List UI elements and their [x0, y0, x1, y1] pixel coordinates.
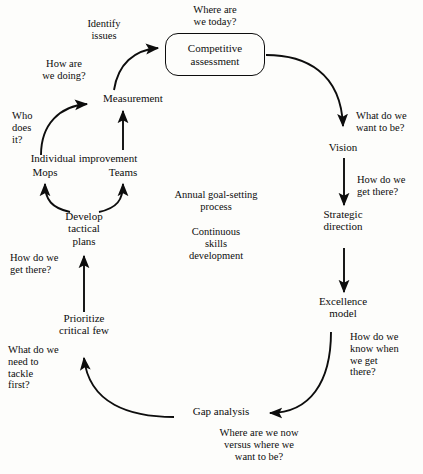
node-vision[interactable]: Vision: [329, 141, 358, 153]
node-competitive-assessment[interactable]: Competitive assessment: [165, 33, 265, 76]
node-measurement[interactable]: Measurement: [103, 92, 163, 104]
question-how-are-we-doing: How are we doing?: [42, 58, 85, 82]
question-how-do-we-get-there-right: How do we get there?: [357, 174, 405, 198]
node-develop-tactical-plans[interactable]: Develop tactical plans: [65, 210, 102, 247]
question-identify-issues: Identify issues: [87, 18, 120, 42]
node-mops[interactable]: Mops: [32, 166, 57, 178]
arrow-excellence-model-to-gap-analysis: [270, 332, 331, 413]
node-competitive-assessment-label: Competitive assessment: [188, 42, 242, 68]
question-who-does-it: Who does it?: [12, 110, 32, 145]
arrow-gap-analysis-to-prioritize: [84, 358, 174, 417]
center-note-annual-goal-setting: Annual goal-setting process: [174, 189, 257, 213]
arrow-competitive-assessment-to-vision: [266, 55, 343, 126]
question-where-are-we-today: Where are we today?: [193, 4, 236, 28]
node-strategic-direction[interactable]: Strategic direction: [323, 208, 362, 233]
question-what-do-we-need-to-tackle-first: What do we need to tackle first?: [8, 344, 59, 391]
arrow-individual-improvement-to-measurement: [41, 104, 87, 155]
node-gap-analysis[interactable]: Gap analysis: [193, 405, 250, 417]
node-excellence-model[interactable]: Excellence model: [319, 295, 367, 320]
node-individual-improvement[interactable]: Individual improvement: [31, 152, 138, 164]
question-where-are-we-now-versus: Where are we now versus where we want to…: [220, 427, 299, 462]
node-prioritize-critical-few[interactable]: Prioritize critical few: [59, 312, 109, 337]
node-teams[interactable]: Teams: [109, 166, 138, 178]
process-cycle-diagram: Competitive assessment Where are we toda…: [0, 0, 423, 474]
arrow-measurement-to-competitive-assessment: [114, 48, 158, 90]
question-how-do-we-know-when-we-get-there: How do we know when we get there?: [350, 331, 399, 378]
center-note-continuous-skills: Continuous skills development: [189, 226, 243, 261]
arrow-develop-to-mops: [45, 184, 70, 212]
question-what-do-we-want-to-be: What do we want to be?: [356, 110, 407, 134]
arrow-develop-to-teams: [99, 184, 123, 212]
question-how-do-we-get-there-left: How do we get there?: [10, 252, 58, 276]
